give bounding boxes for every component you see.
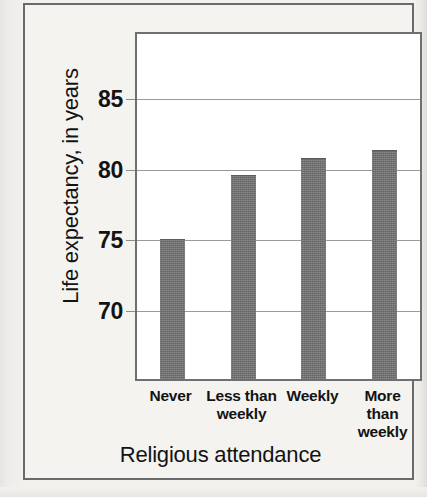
y-tickmark-80	[126, 170, 135, 171]
y-tickmark-75	[126, 240, 135, 241]
figure-root: Life expectancy, in years 70758085 Never…	[0, 0, 427, 497]
x-tick-label: Never	[135, 387, 206, 405]
x-tick-label: Weekly	[277, 387, 348, 405]
y-tick-label-70: 70	[98, 298, 123, 325]
x-tick-label-line: More than	[347, 387, 418, 423]
x-tick-label-line: weekly	[347, 423, 418, 441]
x-tick-label-line: Less than	[206, 387, 277, 405]
x-axis-title: Religious attendance	[25, 442, 416, 468]
x-tick-label-line: weekly	[206, 405, 277, 423]
y-tick-label-75: 75	[98, 227, 123, 254]
page-edge-shading-left	[0, 0, 24, 497]
x-tick-label: Less thanweekly	[206, 387, 277, 423]
y-tick-label-85: 85	[98, 86, 123, 113]
x-tick-label-line: Weekly	[277, 387, 348, 405]
page-edge-shading-bottom	[0, 487, 427, 497]
y-tickmark-85	[126, 99, 135, 100]
figure-border-box: Life expectancy, in years 70758085 Never…	[23, 3, 414, 480]
x-axis-tick-labels: NeverLess thanweeklyWeeklyMore thanweekl…	[135, 387, 422, 439]
x-tick-label-line: Never	[135, 387, 206, 405]
bar	[301, 158, 326, 379]
plot-area: 70758085	[135, 32, 422, 381]
y-tickmark-70	[126, 311, 135, 312]
bar	[160, 239, 185, 379]
y-tick-label-80: 80	[98, 156, 123, 183]
x-tick-label: More thanweekly	[347, 387, 418, 441]
bar	[372, 150, 397, 379]
y-axis-title: Life expectancy, in years	[58, 61, 84, 311]
bar	[231, 175, 256, 379]
gridline-85	[137, 99, 420, 100]
